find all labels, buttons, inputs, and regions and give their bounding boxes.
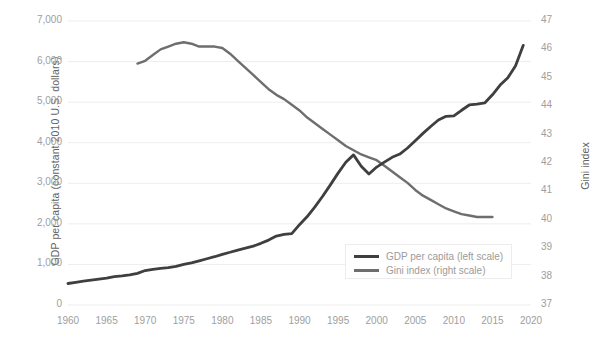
legend-label-gini: Gini index (right scale) xyxy=(386,265,485,276)
plot-area xyxy=(0,0,608,344)
legend-swatch-gini-icon xyxy=(354,269,379,272)
legend-swatch-gdp-icon xyxy=(354,255,379,258)
legend-label-gdp: GDP per capita (left scale) xyxy=(386,251,503,262)
gdp-gini-dual-axis-chart: GDP per capita (constant 2010 U.S. dolla… xyxy=(0,0,608,344)
gini-index-line xyxy=(137,42,492,217)
chart-legend: GDP per capita (left scale) Gini index (… xyxy=(345,244,512,279)
legend-item-gdp: GDP per capita (left scale) xyxy=(354,249,503,263)
legend-item-gini: Gini index (right scale) xyxy=(354,263,485,277)
